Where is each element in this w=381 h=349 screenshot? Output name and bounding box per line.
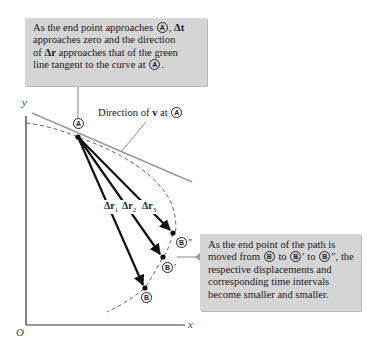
delta-r2-label: Δr2 [122, 200, 136, 214]
point-a-label: A [72, 118, 85, 129]
point-a-dot [75, 134, 80, 139]
callout-top-line-4: line tangent to the curve at A. [33, 59, 203, 71]
origin-label: O [16, 326, 24, 338]
point-b-circle-icon: B [141, 292, 152, 303]
point-b-circle-icon: B [264, 251, 275, 262]
tangent-direction-label: Direction of v at A [98, 107, 183, 118]
point-b-double-prime-circle-icon: B [319, 251, 330, 262]
delta-t-symbol: Δt [174, 22, 184, 33]
callout-top-line-1: As the end point approaches A, Δt [33, 22, 203, 34]
point-a-circle-icon: A [73, 118, 84, 129]
callout-right: As the end point of the path is moved fr… [200, 234, 361, 311]
callout-right-line-5: become smaller and smaller. [208, 289, 356, 301]
point-b-double-prime-circle-icon: B [176, 237, 187, 248]
callout-right-line-4: corresponding time intervals [208, 276, 356, 288]
point-b-prime-circle-icon: B [290, 251, 301, 262]
callout-top-line-3: of Δr approaches that of the green [33, 47, 203, 59]
delta-r-symbol: Δr [44, 47, 55, 58]
point-b-prime-circle-icon: B [162, 262, 173, 273]
point-b-prime-label: B′ [161, 262, 176, 273]
callout-top-line-2: approaches zero and the direction [33, 34, 203, 46]
delta-r3-label: Δr3 [142, 200, 156, 214]
path-curve [26, 123, 176, 312]
delta-r1-label: Δr1 [104, 200, 118, 214]
callout-right-line-1: As the end point of the path is [208, 239, 356, 251]
direction-leader [121, 122, 146, 152]
point-b-dot [142, 285, 147, 290]
point-b-double-prime-dot [170, 230, 175, 235]
point-b-double-prime-label: B″ [175, 237, 192, 248]
y-axis-label: y [22, 96, 27, 108]
delta-r3-vector [78, 137, 170, 230]
point-a-circle-icon: A [157, 22, 168, 33]
x-axis-label: x [188, 318, 193, 330]
callout-right-line-2: moved from B to B′ to B″, the [208, 251, 356, 263]
callout-top: As the end point approaches A, Δt approa… [25, 18, 207, 86]
callout-right-line-3: respective displacements and [208, 264, 356, 276]
point-a-circle-icon: A [171, 107, 182, 118]
point-b-label: B [140, 292, 153, 303]
point-b-prime-dot [160, 254, 165, 259]
point-a-circle-icon: A [149, 59, 160, 70]
